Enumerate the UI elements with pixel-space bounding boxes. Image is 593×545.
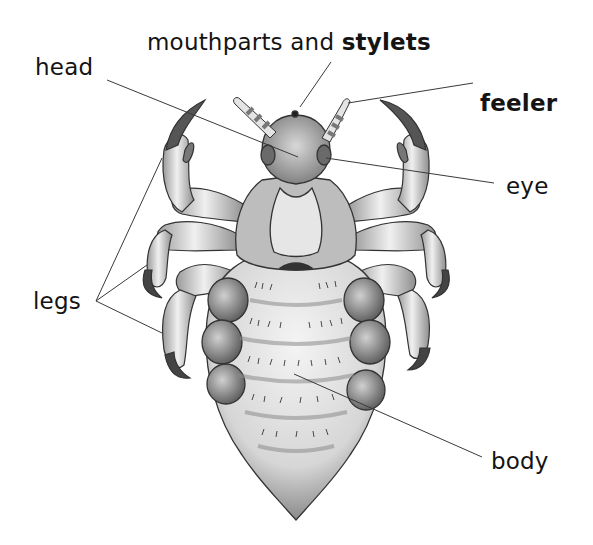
label-mouthparts-text: mouthparts and <box>147 29 342 55</box>
label-mouthparts-and-stylets: mouthparts and stylets <box>147 31 431 54</box>
abdomen <box>202 250 390 520</box>
antenna-right <box>322 99 350 142</box>
antenna-left <box>234 98 276 138</box>
leader-legs-hind <box>96 301 162 333</box>
leader-mouthparts <box>300 62 331 107</box>
eye-left <box>261 145 275 165</box>
label-stylets-text: stylets <box>342 29 431 55</box>
leader-head <box>107 80 298 157</box>
label-feeler: feeler <box>480 92 557 115</box>
leader-legs-middle <box>96 265 147 301</box>
mouthparts-tip <box>292 111 298 117</box>
louse-anatomy-diagram: mouthparts and stylets head feeler eye l… <box>0 0 593 545</box>
label-head: head <box>35 56 93 79</box>
label-eye: eye <box>506 175 549 198</box>
leader-feeler <box>348 83 473 103</box>
label-body: body <box>491 450 549 473</box>
leg-front-right <box>348 100 429 222</box>
leg-front-left <box>163 100 245 222</box>
label-legs: legs <box>33 290 81 313</box>
thorax <box>236 177 357 270</box>
eye-right <box>317 145 331 165</box>
head <box>261 111 331 184</box>
